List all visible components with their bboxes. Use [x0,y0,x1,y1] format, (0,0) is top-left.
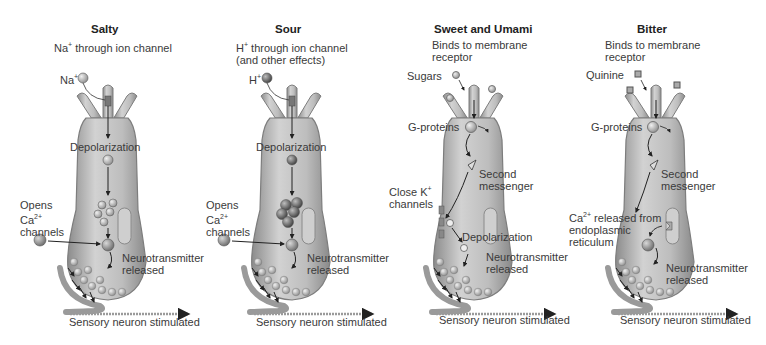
microvillus [662,93,685,118]
taste-cell-salty [34,73,188,314]
ion-particle [283,217,294,228]
synaptic-vesicle [436,258,444,266]
synaptic-vesicle [484,288,492,296]
synaptic-vesicle [462,276,470,284]
synaptic-vesicle [644,276,652,284]
microvillus [261,93,285,118]
panel-title-salty: Salty [91,23,119,35]
ion-particle [94,210,102,218]
synaptic-vesicle [618,258,626,266]
side-label-bitter: Ca2+ released fromendoplasmicreticulum [569,209,661,248]
synaptic-vesicle [440,268,448,276]
synaptic-vesicle [80,276,88,284]
g-protein [466,122,477,133]
g-protein [648,122,659,133]
synaptic-vesicle [98,286,106,294]
binding-arrow [459,80,464,90]
ion-particle [287,155,297,165]
stimulus-label-sweet-umami: Sugars [407,70,442,82]
taste-cell-sour [218,73,372,314]
synaptic-vesicle [628,276,636,284]
calcium-ion [102,239,114,251]
synaptic-vesicle [292,288,300,296]
ion-particle [109,199,117,207]
stimulus-label-bitter: Quinine [586,69,624,81]
output-label-salty: Sensory neuron stimulated [69,316,200,328]
g-proteins-label-sweet-umami: G-proteins [408,121,459,133]
second-messenger-label-sweet-umami: Secondmessenger [479,168,533,192]
taste-cell-sweet-umami [426,72,554,315]
microvillus [114,93,137,118]
panel-title-sweet-umami: Sweet and Umami [434,23,532,35]
k-channel [439,230,444,238]
depolarization-label-salty: Depolarization [70,141,140,153]
side-label-sour: OpensCa2+channels [206,199,250,238]
ion-channel [105,96,111,106]
synaptic-vesicle [454,282,462,290]
plus-charge [447,220,454,227]
nucleus [118,208,131,244]
ion-particle [98,201,106,209]
sugar-molecule [453,72,460,79]
synaptic-vesicle [268,266,276,274]
quinine-molecule [674,82,680,88]
synaptic-vesicle [450,266,458,274]
ion-particle [100,218,108,226]
g-proteins-label-bitter: G-proteins [591,121,642,133]
release-label-sour: Neurotransmitterreleased [307,252,389,276]
sugar-molecule [489,86,496,93]
mechanism-sweet-umami: Binds to membranereceptor [432,39,527,63]
k-channel [439,218,444,226]
synaptic-vesicle [302,288,310,296]
synaptic-vesicle [108,288,116,296]
synaptic-vesicle [254,258,262,266]
plus-charge [461,245,468,252]
mechanism-salty: Na+ through ion channel [54,39,172,54]
side-label-sweet-umami: Close K+channels [389,183,433,210]
synaptic-vesicle [74,268,82,276]
microvillus [298,93,321,118]
microvillus [480,93,503,118]
release-label-sweet-umami: Neurotransmitterreleased [486,251,568,275]
synaptic-vesicle [632,266,640,274]
synaptic-vesicle [622,268,630,276]
release-label-bitter: Neurotransmitterreleased [666,262,748,286]
ion-channel [289,96,295,106]
quinine-molecule [635,71,641,77]
side-label-salty: OpensCa2+channels [20,199,64,238]
microvillus [77,93,101,118]
stimulus-label-sour: H+ [249,71,261,86]
second-messenger-label-bitter: Secondmessenger [661,168,715,192]
synaptic-vesicle [474,288,482,296]
stimulus-label-salty: Na+ [60,71,78,86]
synaptic-vesicle [264,276,272,284]
output-label-sour: Sensory neuron stimulated [256,316,387,328]
ion-particle [289,207,300,218]
synaptic-vesicle [84,266,92,274]
synaptic-vesicle [258,268,266,276]
mechanism-sour: H+ through ion channel(and other effects… [236,39,348,66]
synaptic-vesicle [446,276,454,284]
sugar-molecule [447,95,454,102]
synaptic-vesicle [636,282,644,290]
ion-particle [106,208,114,216]
synaptic-vesicle [70,258,78,266]
depolarization-label-sour: Depolarization [256,141,326,153]
synaptic-vesicle [88,282,96,290]
synaptic-vesicle [666,288,674,296]
quinine-molecule [627,87,633,93]
synaptic-vesicle [96,276,104,284]
synaptic-vesicle [118,288,126,296]
depolarization-label-sweet-umami: Depolarization [462,231,532,243]
binding-arrow [641,80,646,90]
mechanism-bitter: Binds to membranereceptor [605,39,700,63]
ion-particle [103,155,113,165]
synaptic-vesicle [282,286,290,294]
output-label-bitter: Sensory neuron stimulated [620,314,751,326]
panel-title-sour: Sour [275,23,301,35]
synaptic-vesicle [464,286,472,294]
synaptic-vesicle [280,276,288,284]
k-channel [439,206,444,214]
taste-transduction-diagram: Salty Na+ through ion channel Na+ Depola… [0,0,766,345]
stimulus-ion [262,73,272,83]
